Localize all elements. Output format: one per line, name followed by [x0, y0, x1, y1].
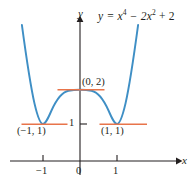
- equation-tail: + 2: [156, 10, 175, 22]
- plot-canvas: [0, 0, 193, 185]
- y-tick-label-one: 1: [69, 118, 74, 129]
- label-maximum-point: (0, 2): [82, 77, 105, 88]
- label-minimum-right-point: (1, 1): [101, 126, 124, 137]
- x-axis-label: x: [182, 155, 187, 166]
- equation-lead: y = x: [98, 10, 123, 22]
- x-tick-label-zero: 0: [76, 166, 81, 177]
- x-tick-label-neg-one: −1: [36, 166, 47, 177]
- x-tick-label-one: 1: [113, 166, 118, 177]
- function-graph-figure: y x y = x4 − 2x2 + 2 (0, 2) (−1, 1) (1, …: [0, 0, 193, 185]
- y-axis-label: y: [78, 8, 83, 19]
- label-minimum-left-point: (−1, 1): [17, 126, 46, 137]
- equation-mid: − 2x: [127, 10, 152, 22]
- equation-label: y = x4 − 2x2 + 2: [98, 11, 175, 23]
